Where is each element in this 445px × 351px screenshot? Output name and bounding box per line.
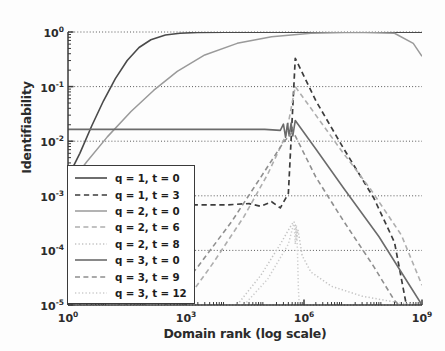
x-tick-label-2: 106 bbox=[287, 310, 321, 325]
chart-figure: Identifiability Domain rank (log scale) … bbox=[0, 0, 445, 351]
y-tick-label-1: 10-1 bbox=[30, 80, 64, 95]
legend-label-1: q = 1, t = 3 bbox=[115, 189, 180, 201]
legend-item-4[interactable]: q = 2, t = 8 bbox=[68, 236, 194, 252]
legend-label-7: q = 3, t = 12 bbox=[115, 287, 187, 299]
series-line-7 bbox=[244, 222, 299, 305]
x-tick-label-0: 100 bbox=[51, 310, 85, 325]
y-tick-label-0: 100 bbox=[30, 25, 64, 40]
series-line-6 bbox=[165, 132, 399, 305]
legend-label-4: q = 2, t = 8 bbox=[115, 238, 180, 250]
series-line-0 bbox=[68, 32, 422, 177]
y-tick-label-2: 10-2 bbox=[30, 134, 64, 149]
legend-label-2: q = 2, t = 0 bbox=[115, 205, 180, 217]
legend-swatch-icon-4 bbox=[74, 238, 108, 250]
legend-label-6: q = 3, t = 9 bbox=[115, 271, 180, 283]
legend-rows: q = 1, t = 0q = 1, t = 3q = 2, t = 0q = … bbox=[68, 170, 194, 301]
legend-item-6[interactable]: q = 3, t = 9 bbox=[68, 268, 194, 284]
legend-label-0: q = 1, t = 0 bbox=[115, 172, 180, 184]
legend-swatch-icon-2 bbox=[74, 205, 108, 217]
x-axis-label: Domain rank (log scale) bbox=[68, 326, 422, 341]
series-line-2 bbox=[68, 32, 422, 186]
legend-swatch-icon-6 bbox=[74, 271, 108, 283]
chart-legend: q = 1, t = 0q = 1, t = 3q = 2, t = 0q = … bbox=[67, 165, 195, 304]
series-line-3 bbox=[186, 87, 422, 301]
x-tick-label-3: 109 bbox=[405, 310, 439, 325]
legend-swatch-icon-3 bbox=[74, 221, 108, 233]
legend-item-3[interactable]: q = 2, t = 6 bbox=[68, 219, 194, 235]
legend-item-5[interactable]: q = 3, t = 0 bbox=[68, 252, 194, 268]
legend-item-7[interactable]: q = 3, t = 12 bbox=[68, 285, 194, 301]
y-tick-label-3: 10-3 bbox=[30, 189, 64, 204]
x-tick-label-1: 103 bbox=[169, 310, 203, 325]
y-tick-label-4: 10-4 bbox=[30, 243, 64, 258]
series-line-4 bbox=[237, 224, 422, 305]
legend-swatch-icon-7 bbox=[74, 287, 108, 299]
legend-label-3: q = 2, t = 6 bbox=[115, 221, 180, 233]
legend-item-2[interactable]: q = 2, t = 0 bbox=[68, 203, 194, 219]
y-axis-label: Identifiability bbox=[19, 58, 34, 198]
legend-swatch-icon-1 bbox=[74, 189, 108, 201]
legend-item-1[interactable]: q = 1, t = 3 bbox=[68, 186, 194, 202]
legend-label-5: q = 3, t = 0 bbox=[115, 254, 180, 266]
legend-item-0[interactable]: q = 1, t = 0 bbox=[68, 170, 194, 186]
legend-swatch-icon-5 bbox=[74, 254, 108, 266]
legend-swatch-icon-0 bbox=[74, 172, 108, 184]
